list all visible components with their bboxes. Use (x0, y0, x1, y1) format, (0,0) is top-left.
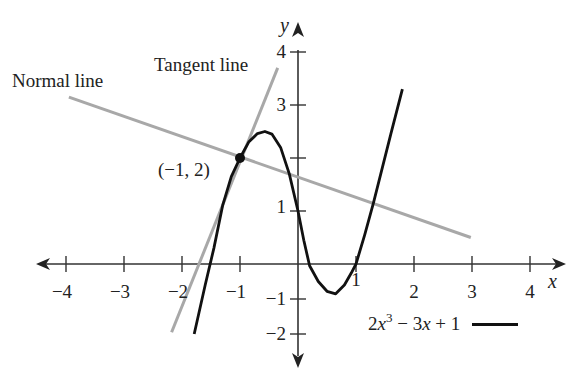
x-tick-label: −3 (110, 282, 130, 301)
legend: 2x3 − 3x + 1 (368, 313, 518, 335)
normal-line-label: Normal line (12, 71, 103, 90)
x-axis-label: x (548, 270, 557, 293)
legend-var: x (378, 313, 386, 334)
y-axis-arrow-up (292, 22, 304, 37)
x-tick-label: 2 (409, 282, 419, 301)
y-tick-label: −2 (266, 324, 286, 343)
legend-line-swatch (472, 323, 518, 326)
y-tick-label: 4 (277, 42, 287, 61)
legend-coef: 2 (368, 313, 378, 334)
legend-var: x (422, 313, 430, 334)
axes (44, 50, 556, 356)
x-tick-label: 3 (467, 282, 477, 301)
legend-term: + 1 (431, 313, 461, 334)
x-tick-label: −4 (52, 282, 72, 301)
y-tick-label: 1 (277, 197, 287, 216)
point-label: (−1, 2) (158, 160, 210, 179)
tangency-point-marker (235, 153, 245, 163)
y-tick-label: −1 (266, 289, 286, 308)
x-tick-label: −2 (168, 282, 188, 301)
x-tick-label: 1 (351, 270, 361, 289)
x-tick-label: 4 (525, 282, 535, 301)
y-axis-label: y (280, 14, 289, 37)
tangent-line-label: Tangent line (154, 55, 248, 74)
legend-label: 2x3 − 3x + 1 (368, 313, 460, 335)
legend-term: − 3 (392, 313, 422, 334)
y-tick-label: 3 (277, 95, 287, 114)
x-tick-label: −1 (226, 282, 246, 301)
normal-line (69, 97, 471, 237)
